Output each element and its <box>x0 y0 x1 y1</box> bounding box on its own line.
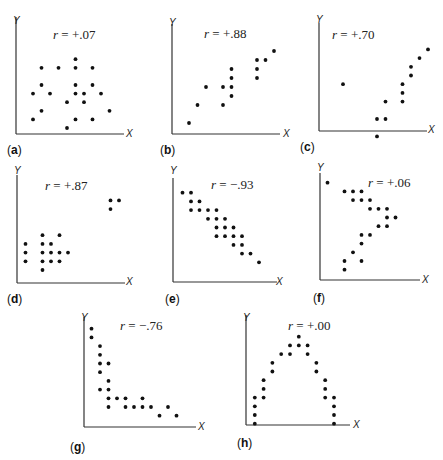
data-point <box>141 405 145 409</box>
y-axis-label: Y <box>317 162 324 173</box>
data-point <box>230 85 234 89</box>
data-point <box>189 208 193 212</box>
x-axis-label: X <box>353 419 360 430</box>
data-point <box>271 370 275 374</box>
data-point <box>132 405 136 409</box>
data-point <box>332 422 336 426</box>
data-point <box>401 91 405 95</box>
data-point <box>65 100 69 104</box>
scatter-panel-h: Y X r = +.00 (h) <box>220 300 370 460</box>
r-value: = +.07 <box>58 27 95 42</box>
data-point <box>98 344 102 348</box>
data-point <box>323 378 327 382</box>
data-point <box>279 352 283 356</box>
r-value: = +.70 <box>337 27 374 42</box>
r-value: = −.93 <box>216 177 253 192</box>
data-point <box>90 327 94 331</box>
data-point <box>360 198 364 202</box>
data-point <box>223 226 227 230</box>
r-value: = −.76 <box>125 318 162 333</box>
data-point <box>315 370 319 374</box>
data-point <box>41 242 45 246</box>
data-point <box>377 224 381 228</box>
panel-letter-d: (d) <box>7 292 22 306</box>
data-point <box>74 118 78 122</box>
data-point <box>198 200 202 204</box>
data-point <box>306 344 310 348</box>
data-point <box>74 83 78 87</box>
data-point <box>384 117 388 121</box>
y-axis-label: Y <box>14 165 21 176</box>
data-point <box>375 135 379 139</box>
y-axis-label: Y <box>316 14 323 25</box>
data-point <box>175 414 179 418</box>
x-axis-label: X <box>428 124 435 135</box>
data-point <box>189 200 193 204</box>
r-value: = +.06 <box>373 175 410 190</box>
letter: d <box>11 292 18 306</box>
data-point <box>40 109 44 113</box>
data-point <box>91 83 95 87</box>
data-point <box>232 243 236 247</box>
data-point <box>206 217 210 221</box>
data-point <box>41 233 45 237</box>
data-point <box>24 242 28 246</box>
data-point <box>117 199 121 203</box>
data-point <box>253 404 257 408</box>
data-point <box>255 76 259 80</box>
data-point <box>24 251 28 255</box>
x-axis-label: X <box>276 276 283 287</box>
data-point <box>368 207 372 211</box>
data-point <box>230 94 234 98</box>
letter: h <box>241 436 248 450</box>
data-point <box>230 76 234 80</box>
data-point <box>115 396 119 400</box>
correlation-label: r = +.87 <box>45 178 87 194</box>
data-point <box>124 405 128 409</box>
x-axis-label: X <box>126 128 133 139</box>
data-point <box>253 396 257 400</box>
data-point <box>351 190 355 194</box>
data-point <box>221 85 225 89</box>
data-point <box>240 252 244 256</box>
data-point <box>351 198 355 202</box>
data-point <box>409 74 413 78</box>
data-point <box>98 362 102 366</box>
data-point <box>91 66 95 70</box>
data-point <box>315 361 319 365</box>
y-axis-label: Y <box>170 165 177 176</box>
data-point <box>74 92 78 96</box>
data-point <box>232 234 236 238</box>
data-point <box>351 250 355 254</box>
correlation-label: r = +.00 <box>288 318 330 334</box>
data-point <box>377 207 381 211</box>
r-value: = +.87 <box>50 178 87 193</box>
data-point <box>215 226 219 230</box>
letter: g <box>74 440 81 454</box>
data-point <box>297 344 301 348</box>
panel-letter-g: (g) <box>70 440 85 454</box>
data-point <box>82 100 86 104</box>
data-point <box>108 109 112 113</box>
data-point <box>262 378 266 382</box>
data-point <box>58 233 62 237</box>
data-point <box>262 387 266 391</box>
data-point <box>360 190 364 194</box>
data-point <box>74 66 78 70</box>
data-point <box>40 66 44 70</box>
scatter-panel-a: Y X r = +.07 (a) <box>0 0 150 150</box>
data-point <box>385 224 389 228</box>
data-point <box>58 251 62 255</box>
r-value: = +.88 <box>209 26 246 41</box>
data-point <box>360 242 364 246</box>
data-point <box>360 233 364 237</box>
data-point <box>368 198 372 202</box>
data-point <box>253 422 257 426</box>
x-axis-label: X <box>422 274 429 285</box>
data-point <box>288 344 292 348</box>
data-point <box>271 361 275 365</box>
data-point <box>181 191 185 195</box>
data-point <box>262 396 266 400</box>
data-point <box>74 57 78 61</box>
data-point <box>223 234 227 238</box>
